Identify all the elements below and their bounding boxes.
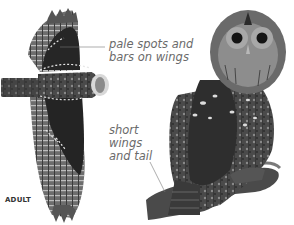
caption-adult: ADULT — [5, 196, 31, 204]
annotation-pale-spots: pale spots and bars on wings — [109, 38, 193, 64]
owl-illustrations — [0, 0, 294, 225]
leader-line-short — [150, 162, 165, 192]
annotation-short-wings: short wings and tail — [109, 124, 152, 163]
field-guide-plate: pale spots and bars on wings short wings… — [0, 0, 294, 225]
flying-owl-illustration — [1, 8, 109, 223]
